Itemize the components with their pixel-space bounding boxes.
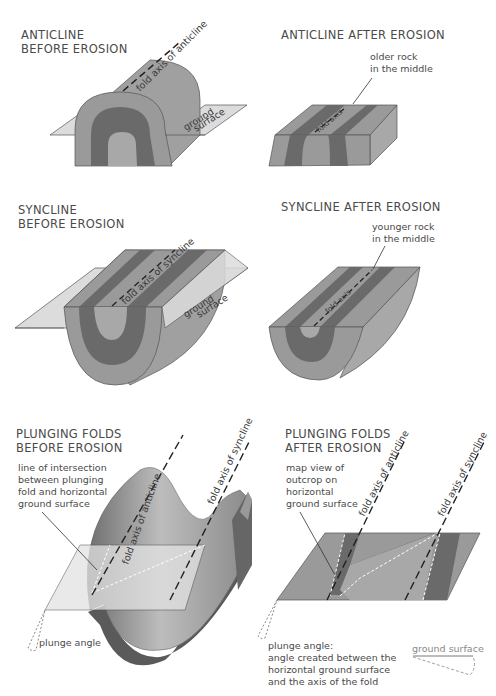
syncline-after-diagram: fold axis <box>269 246 420 380</box>
syncline-before-diagram: fold axis of syncline ground surface <box>15 235 248 385</box>
plunging-after-diagram: fold axis of anticline fold axis of sync… <box>258 428 489 675</box>
anticline-after-diagram: fold axis <box>269 78 397 166</box>
plunging-after-axis-syncline: fold axis of syncline <box>435 430 489 518</box>
ground-surface-legend: ground surface <box>412 643 484 654</box>
fold-diagrams: fold axis of anticline ground surface fo… <box>0 0 496 696</box>
plunging-after-axis-anticline: fold axis of anticline <box>356 428 411 518</box>
plunging-before-axis-syncline: fold axis of syncline <box>205 416 255 506</box>
plunging-before-diagram: fold axis of anticline fold axis of sync… <box>28 416 255 666</box>
anticline-before-diagram: fold axis of anticline ground surface <box>50 18 247 166</box>
